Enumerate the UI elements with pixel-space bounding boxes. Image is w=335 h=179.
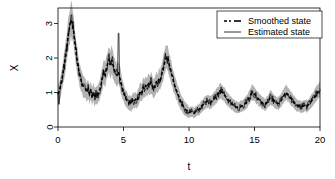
chart-figure: 05101520 0123 t X Smoothed state Estimat…	[0, 0, 335, 179]
y-tick-label: 2	[44, 55, 55, 60]
legend-label-smoothed-state: Smoothed state	[248, 16, 311, 26]
x-tick-label: 0	[55, 134, 60, 145]
y-tick-label: 3	[44, 21, 55, 26]
x-axis-title: t	[188, 161, 191, 172]
legend-label-estimated-state: Estimated state	[248, 27, 310, 37]
x-tick-label: 20	[315, 134, 326, 145]
line-chart: 05101520 0123 t X Smoothed state Estimat…	[0, 0, 335, 179]
chart-legend: Smoothed state Estimated state	[217, 11, 322, 38]
y-axis: 0123	[44, 21, 59, 130]
x-tick-label: 15	[249, 134, 260, 145]
x-tick-label: 5	[121, 134, 126, 145]
x-axis: 05101520	[55, 127, 325, 145]
y-tick-label: 0	[44, 124, 55, 129]
x-tick-label: 10	[184, 134, 195, 145]
y-axis-title: X	[9, 64, 20, 71]
y-tick-label: 1	[44, 90, 55, 95]
